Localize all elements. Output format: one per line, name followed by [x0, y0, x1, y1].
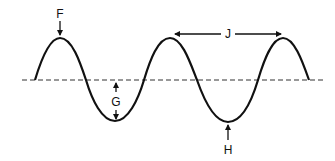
wave-curve [35, 38, 309, 122]
label-g: G [111, 95, 120, 109]
wavelength-marker-j: J [175, 27, 281, 41]
crest-marker-f: F [56, 7, 63, 35]
label-h: H [224, 143, 233, 157]
wave-diagram: F G J H [0, 0, 335, 161]
trough-marker-h: H [224, 125, 233, 157]
label-f: F [56, 7, 63, 21]
label-j: J [225, 27, 231, 41]
amplitude-marker-g: G [111, 83, 120, 119]
